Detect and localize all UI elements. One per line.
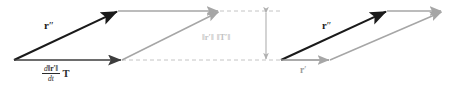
tangent-vector-symbol: T [63,69,70,80]
vector-diagram-figure: r″ d‖r′‖ dt T ‖r′‖‖T′‖ r″ r′ [0,0,454,88]
label-norms-product: ‖r′‖‖T′‖ [202,33,230,42]
label-r-double-prime-right: r″ [322,21,331,32]
derivative-norm-r-prime: ‖r′‖ [48,64,58,73]
label-norm-t-prime: ‖T′‖ [217,32,231,42]
right-gray-diagonal-vector [330,12,442,60]
label-r-double-prime-left-prime: ″ [49,19,53,31]
right-black-r-double-prime-vector [281,12,386,60]
derivative-fraction-denominator: dt [46,74,56,82]
label-r-double-prime-left: r″ [44,20,53,31]
label-derivative-tangent: d‖r′‖ dt T [42,65,70,83]
right-parallelogram [281,11,442,60]
label-r-prime-right: r′ [300,66,306,76]
derivative-fraction: d‖r′‖ dt [42,65,60,83]
left-black-r-double-prime-vector [14,12,117,60]
label-r-prime-right-prime: ′ [304,65,306,75]
label-norm-r-prime: ‖r′‖ [202,32,214,42]
label-r-double-prime-right-prime: ″ [327,20,331,31]
derivative-fraction-numerator: d‖r′‖ [42,65,60,74]
